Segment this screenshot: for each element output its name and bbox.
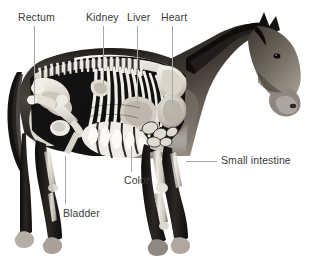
organ-bladder: [50, 120, 70, 136]
horse-anatomy-illustration: [0, 0, 313, 273]
horse-skeleton-and-organs: [27, 57, 187, 158]
label-kidney: Kidney: [86, 12, 119, 23]
horse-fore-legs: [141, 144, 190, 256]
leader-line-liver: [137, 26, 138, 104]
horse-hind-legs: [15, 132, 62, 254]
label-liver: Liver: [127, 12, 150, 23]
leader-line-kidney: [103, 26, 104, 84]
leader-line-bladder: [65, 156, 66, 204]
horse-head: [248, 12, 301, 117]
label-small-intestine: Small intestine: [221, 155, 291, 166]
label-heart: Heart: [161, 12, 187, 23]
anatomy-figure: Rectum Kidney Liver Heart Small intestin…: [0, 0, 313, 273]
label-colon: Colon: [124, 175, 152, 186]
leader-line-colon: [131, 146, 132, 172]
leader-line-small-intestine: [186, 161, 217, 162]
leader-line-rectum: [34, 26, 35, 104]
label-rectum: Rectum: [18, 12, 55, 23]
label-bladder: Bladder: [63, 208, 100, 219]
leader-line-heart: [172, 26, 173, 106]
